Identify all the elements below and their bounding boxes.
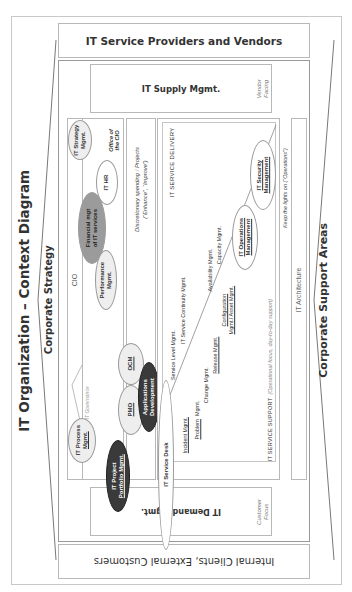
ellipse-service-desk: IT Service Desk <box>158 380 174 550</box>
service-level-mgmt: Service Level Mgmt. <box>168 320 178 390</box>
incident-mgmt: Incident Mgmt. <box>180 410 190 460</box>
ellipse-it-security: IT SecurityManagement <box>250 140 276 210</box>
ellipse-it-operations: IT OperationsManagement <box>232 205 258 270</box>
configuration-mgmt: ConfigurationMgmt./ Asset Mgmt. <box>218 275 238 345</box>
service-support-label: IT SERVICE SUPPORT (Operational focus, d… <box>264 300 276 460</box>
keep-lights-label: Keep the lights on (“Operations”) <box>280 118 290 258</box>
it-architecture-label: IT Architecture <box>291 250 307 330</box>
capacity-mgmt: Capacity Mgmt. <box>214 215 224 275</box>
service-delivery-label: IT SERVICE DELIVERY <box>166 125 178 200</box>
service-continuity-mgmt: IT Service Continuity Mgmt. <box>178 260 188 360</box>
